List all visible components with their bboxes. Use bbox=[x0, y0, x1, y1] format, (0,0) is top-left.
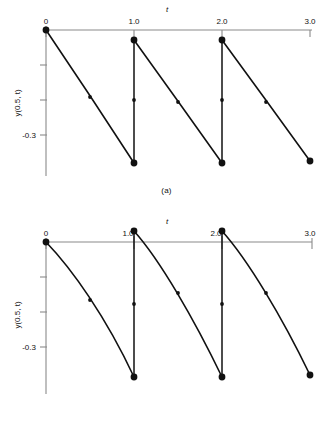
data-point-marker bbox=[131, 228, 138, 235]
x-axis-label: t bbox=[166, 5, 169, 14]
panel-a-labels: t 0 1.0 2.0 3.0 -0.3 y(0.5, t) bbox=[13, 5, 316, 140]
x-ticklabel-1: 1.0 bbox=[128, 17, 140, 26]
x-ticklabel-0: 0 bbox=[44, 17, 49, 26]
data-point-marker-small bbox=[176, 100, 180, 104]
data-point-marker-small bbox=[264, 291, 268, 295]
y-ticklabel-minus03: -0.3 bbox=[22, 131, 36, 140]
x-ticklabel-2: 2.0 bbox=[216, 17, 228, 26]
data-point-marker bbox=[43, 239, 50, 246]
panel-a: t 0 1.0 2.0 3.0 -0.3 y(0.5, t) bbox=[0, 0, 333, 212]
ramp-segment-3 bbox=[222, 231, 310, 375]
x-ticklabel-3: 3.0 bbox=[304, 229, 316, 238]
data-point-marker bbox=[219, 37, 226, 44]
data-point-marker-small bbox=[88, 95, 92, 99]
x-axis-label: t bbox=[166, 217, 169, 226]
panel-a-caption: (a) bbox=[0, 186, 333, 195]
data-point-marker-small bbox=[220, 302, 224, 306]
panel-b-series bbox=[43, 228, 314, 381]
panel-a-plot: t 0 1.0 2.0 3.0 -0.3 y(0.5, t) bbox=[0, 0, 333, 212]
ramp-segment-1 bbox=[46, 242, 134, 377]
panel-b: t 0 1.0 2.0 3.0 -0.3 y(0.5, t) bbox=[0, 212, 333, 424]
data-point-marker-small bbox=[132, 98, 136, 102]
x-ticklabel-3: 3.0 bbox=[304, 17, 316, 26]
panel-a-axes bbox=[40, 26, 312, 176]
panel-a-series bbox=[43, 27, 314, 167]
data-point-marker bbox=[307, 372, 314, 379]
data-point-marker bbox=[131, 160, 138, 167]
y-axis-label: y(0.5, t) bbox=[13, 89, 22, 116]
data-point-marker-small bbox=[132, 302, 136, 306]
data-point-marker-small bbox=[220, 98, 224, 102]
panel-b-plot: t 0 1.0 2.0 3.0 -0.3 y(0.5, t) bbox=[0, 212, 333, 424]
panel-b-axes bbox=[40, 236, 312, 394]
data-point-marker-small bbox=[176, 291, 180, 295]
data-point-marker bbox=[219, 374, 226, 381]
data-point-marker bbox=[43, 27, 50, 34]
figure-root: t 0 1.0 2.0 3.0 -0.3 y(0.5, t) bbox=[0, 0, 333, 424]
ramp-segment-2 bbox=[134, 231, 222, 377]
data-point-marker bbox=[219, 160, 226, 167]
panel-b-labels: t 0 1.0 2.0 3.0 -0.3 y(0.5, t) bbox=[13, 217, 316, 352]
data-point-marker bbox=[131, 37, 138, 44]
y-axis-label: y(0.5, t) bbox=[13, 301, 22, 328]
data-point-marker-small bbox=[88, 298, 92, 302]
data-point-marker bbox=[307, 158, 314, 165]
x-ticklabel-0: 0 bbox=[44, 229, 49, 238]
data-point-marker-small bbox=[264, 100, 268, 104]
data-point-marker bbox=[131, 374, 138, 381]
data-point-marker bbox=[219, 228, 226, 235]
y-ticklabel-minus03: -0.3 bbox=[22, 343, 36, 352]
